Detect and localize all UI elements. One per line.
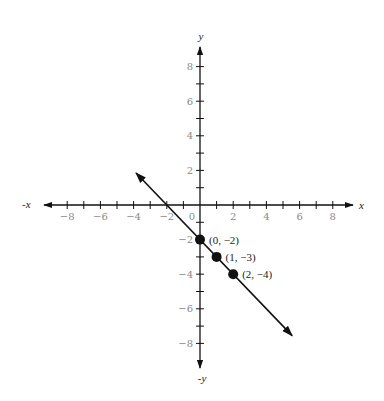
x-tick-label: 8: [330, 211, 336, 222]
y-tick-label: −6: [178, 303, 193, 314]
data-point-label: (1, −3): [226, 251, 256, 264]
data-point-label: (0, −2): [209, 234, 239, 247]
neg-x-axis-label: -x: [22, 198, 31, 210]
x-tick-label: 0: [189, 211, 195, 222]
neg-y-axis-label: -y: [198, 372, 207, 384]
data-point: [228, 269, 238, 279]
tick-labels: x-xy-y−8−6−4−2024688642−2−4−6−8: [22, 30, 364, 384]
x-axis-label: x: [358, 199, 364, 211]
y-tick-label: −8: [178, 338, 193, 349]
data-series: (0, −2)(1, −3)(2, −4): [136, 173, 292, 336]
data-point: [195, 235, 205, 245]
data-point-label: (2, −4): [242, 268, 272, 281]
y-tick-label: −2: [178, 234, 193, 245]
data-point: [212, 252, 222, 262]
x-tick-label: 6: [296, 211, 302, 222]
x-tick-label: 4: [263, 211, 269, 222]
coordinate-plane: x-xy-y−8−6−4−2024688642−2−4−6−8 (0, −2)(…: [0, 0, 384, 401]
x-tick-label: −8: [60, 211, 75, 222]
y-tick-label: 6: [187, 96, 193, 107]
y-tick-label: 2: [187, 165, 193, 176]
x-tick-label: 2: [230, 211, 236, 222]
x-tick-label: −6: [93, 211, 108, 222]
y-axis-label: y: [198, 30, 204, 42]
y-tick-label: 4: [187, 130, 193, 141]
y-tick-label: −4: [178, 269, 193, 280]
x-tick-label: −2: [159, 211, 174, 222]
y-tick-label: 8: [187, 61, 193, 72]
x-tick-label: −4: [126, 211, 141, 222]
axes: [44, 47, 353, 368]
